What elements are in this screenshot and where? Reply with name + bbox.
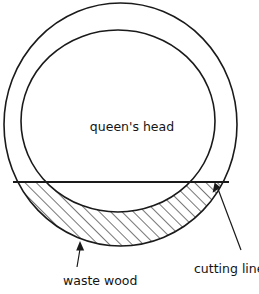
waste-wood-hatch <box>0 0 259 294</box>
diagram-canvas: queen's head waste wood cutting line <box>0 0 259 294</box>
waste-wood-label: waste wood <box>63 273 137 288</box>
cutting-line-label: cutting line <box>194 261 259 276</box>
waste-wood-region <box>0 0 259 294</box>
center-label: queen's head <box>90 119 174 134</box>
ring-diagram-figure: queen's head waste wood cutting line <box>0 0 259 294</box>
